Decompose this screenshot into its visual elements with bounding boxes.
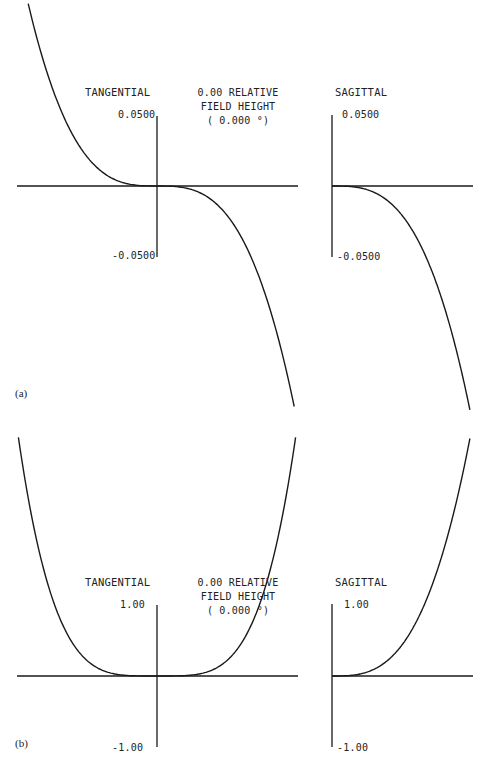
- a-field-line2: FIELD HEIGHT: [196, 100, 280, 114]
- a-tan-ytick-top: 0.0500: [118, 109, 155, 120]
- b-field-height-label: 0.00 RELATIVE FIELD HEIGHT ( 0.000 °): [196, 576, 280, 618]
- b-sag-ytick-bottom: -1.00: [337, 742, 368, 753]
- a-field-height-label: 0.00 RELATIVE FIELD HEIGHT ( 0.000 °): [196, 86, 280, 128]
- b-sagittal-title: SAGITTAL: [335, 576, 387, 588]
- a-field-line1: 0.00 RELATIVE: [196, 86, 280, 100]
- a-sag-ytick-bottom: -0.0500: [337, 251, 381, 262]
- a-sagittal-curve: [332, 186, 470, 410]
- b-field-line2: FIELD HEIGHT: [196, 590, 280, 604]
- a-tangential-curve: [28, 4, 294, 407]
- panel-tag-b: (b): [15, 737, 28, 749]
- panel-tag-a: (a): [15, 387, 27, 399]
- b-tan-ytick-top: 1.00: [120, 599, 145, 610]
- figure: TANGENTIAL 0.0500 -0.0500 0.00 RELATIVE …: [0, 0, 487, 767]
- b-tangential-title: TANGENTIAL: [85, 576, 150, 588]
- a-field-line3: ( 0.000 °): [196, 114, 280, 128]
- b-field-line1: 0.00 RELATIVE: [196, 576, 280, 590]
- b-field-line3: ( 0.000 °): [196, 604, 280, 618]
- a-sag-ytick-top: 0.0500: [342, 109, 379, 120]
- a-tangential-title: TANGENTIAL: [85, 86, 150, 98]
- b-tan-ytick-bottom: -1.00: [112, 742, 143, 753]
- a-sagittal-title: SAGITTAL: [335, 86, 387, 98]
- b-sag-ytick-top: 1.00: [344, 599, 369, 610]
- b-sagittal-curve: [332, 439, 470, 677]
- a-tan-ytick-bottom: -0.0500: [112, 250, 156, 261]
